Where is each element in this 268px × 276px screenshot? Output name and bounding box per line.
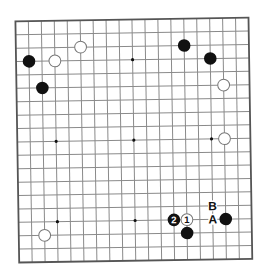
marker-b: B bbox=[208, 199, 217, 213]
black-stone bbox=[204, 52, 217, 65]
star-points bbox=[53, 57, 214, 223]
black-stone-icon bbox=[178, 39, 191, 52]
go-board: 21 AB bbox=[0, 0, 268, 276]
white-stone bbox=[75, 41, 87, 53]
move-number: 1 bbox=[184, 214, 190, 225]
white-stone bbox=[49, 55, 61, 67]
black-stone-icon bbox=[204, 52, 217, 65]
move-number: 2 bbox=[171, 214, 176, 225]
black-stone-icon bbox=[219, 213, 232, 226]
marker-label: A bbox=[208, 212, 217, 226]
star-point bbox=[131, 58, 134, 61]
black-stone bbox=[36, 82, 49, 95]
black-stone bbox=[23, 55, 36, 68]
black-stone bbox=[219, 213, 232, 226]
white-stone bbox=[39, 229, 51, 241]
black-stone-icon bbox=[181, 227, 194, 240]
black-stone bbox=[178, 39, 191, 52]
white-stone bbox=[218, 79, 230, 91]
black-stone bbox=[181, 227, 194, 240]
marker-a: A bbox=[208, 212, 217, 226]
go-board-diagram: 21 AB bbox=[0, 0, 268, 276]
white-stone-icon bbox=[75, 41, 87, 53]
marker-label: B bbox=[208, 199, 217, 213]
white-stone-icon bbox=[49, 55, 61, 67]
white-stone-icon bbox=[218, 79, 230, 91]
star-point bbox=[210, 137, 213, 140]
black-stone: 2 bbox=[168, 213, 181, 226]
star-point bbox=[133, 219, 136, 222]
black-stone-icon bbox=[36, 82, 49, 95]
white-stone bbox=[218, 133, 230, 145]
star-point bbox=[56, 220, 59, 223]
star-point bbox=[132, 138, 135, 141]
white-stone-icon bbox=[218, 133, 230, 145]
star-point bbox=[55, 140, 58, 143]
markers-layer: AB bbox=[208, 199, 218, 227]
white-stone: 1 bbox=[181, 214, 193, 226]
white-stone-icon bbox=[39, 229, 51, 241]
black-stone-icon bbox=[23, 55, 36, 68]
